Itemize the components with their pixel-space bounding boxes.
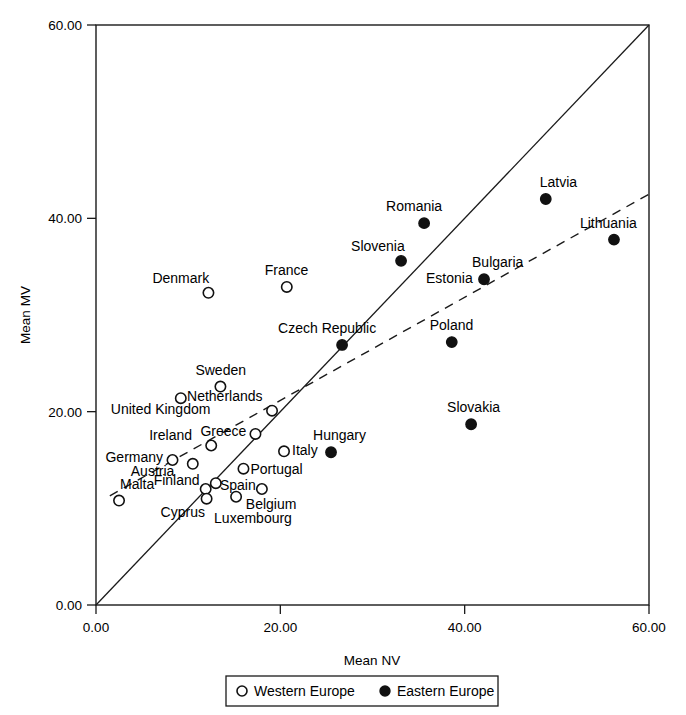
- point-label-portugal: Portugal: [250, 461, 302, 477]
- data-point-denmark-western-europe: [203, 288, 213, 298]
- y-axis-ticks: 0.0020.0040.0060.00: [48, 18, 96, 613]
- data-point-slovenia-eastern-europe: [396, 256, 406, 266]
- data-point-italy-western-europe: [279, 446, 289, 456]
- data-point-portugal-western-europe: [238, 464, 248, 474]
- point-label-czech-republic: Czech Republic: [278, 320, 376, 336]
- point-label-romania: Romania: [386, 198, 442, 214]
- point-label-luxembourg: Luxembourg: [214, 510, 292, 526]
- point-label-greece: Greece: [200, 423, 246, 439]
- data-point-malta-western-europe: [114, 495, 124, 505]
- data-point-greece-western-europe: [250, 429, 260, 439]
- point-labels-layer: DenmarkFranceSwedenUnited KingdomNetherl…: [105, 174, 637, 526]
- point-label-netherlands: Netherlands: [187, 388, 263, 404]
- y-tick-label-0: 0.00: [56, 598, 82, 613]
- data-point-netherlands-western-europe: [267, 406, 277, 416]
- point-label-poland: Poland: [430, 317, 474, 333]
- point-label-slovakia: Slovakia: [447, 399, 500, 415]
- data-point-finland-western-europe: [200, 484, 210, 494]
- legend-label-western-europe: Western Europe: [254, 683, 355, 699]
- x-axis-title: Mean NV: [344, 653, 400, 668]
- data-point-spain-western-europe: [257, 484, 267, 494]
- data-point-lithuania-eastern-europe: [609, 234, 619, 244]
- legend-marker-western-europe: [237, 686, 247, 696]
- x-axis-ticks: 0.0020.0040.0060.00: [83, 605, 666, 635]
- point-label-slovenia: Slovenia: [351, 238, 405, 254]
- point-label-denmark: Denmark: [152, 270, 210, 286]
- point-label-ireland: Ireland: [149, 427, 192, 443]
- point-label-lithuania: Lithuania: [580, 215, 637, 231]
- point-label-latvia: Latvia: [540, 174, 578, 190]
- y-tick-label-2: 40.00: [48, 211, 82, 226]
- point-label-cyprus: Cyprus: [161, 504, 205, 520]
- data-point-ireland-western-europe: [206, 440, 216, 450]
- chart-canvas: 0.0020.0040.0060.00 0.0020.0040.0060.00 …: [0, 0, 686, 715]
- x-tick-label-1: 20.00: [263, 620, 297, 635]
- point-label-france: France: [265, 262, 309, 278]
- point-label-bulgaria: Bulgaria: [472, 254, 524, 270]
- data-point-slovakia-eastern-europe: [466, 419, 476, 429]
- point-label-spain: Spain: [220, 477, 256, 493]
- data-point-france-western-europe: [282, 282, 292, 292]
- x-tick-label-3: 60.00: [632, 620, 666, 635]
- point-label-estonia: Estonia: [426, 270, 473, 286]
- data-point-austria-western-europe: [188, 459, 198, 469]
- y-tick-label-3: 60.00: [48, 18, 82, 33]
- data-point-romania-eastern-europe: [419, 218, 429, 228]
- data-point-czech-republic-eastern-europe: [337, 340, 347, 350]
- legend-marker-eastern-europe: [380, 686, 390, 696]
- data-point-latvia-eastern-europe: [541, 194, 551, 204]
- data-point-luxembourg-western-europe: [231, 492, 241, 502]
- point-label-malta: Malta: [120, 476, 154, 492]
- legend-label-eastern-europe: Eastern Europe: [397, 683, 494, 699]
- point-label-hungary: Hungary: [313, 427, 366, 443]
- data-point-estonia-eastern-europe: [479, 274, 489, 284]
- data-point-cyprus-western-europe: [201, 493, 211, 503]
- point-label-sweden: Sweden: [195, 362, 246, 378]
- x-tick-label-0: 0.00: [83, 620, 109, 635]
- scatter-plot-figure: 0.0020.0040.0060.00 0.0020.0040.0060.00 …: [0, 0, 686, 715]
- chart-legend: Western Europe Eastern Europe: [226, 676, 498, 706]
- data-point-hungary-eastern-europe: [326, 447, 336, 457]
- x-tick-label-2: 40.00: [448, 620, 482, 635]
- point-label-italy: Italy: [292, 442, 318, 458]
- y-axis-title: Mean MV: [18, 286, 33, 344]
- data-point-poland-eastern-europe: [447, 337, 457, 347]
- point-label-finland: Finland: [154, 472, 200, 488]
- y-tick-label-1: 20.00: [48, 405, 82, 420]
